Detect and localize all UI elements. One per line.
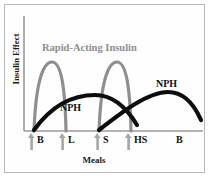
x-tick-label-l: L — [68, 134, 75, 145]
chart-plot-area — [0, 0, 210, 178]
x-tick-label-b2: B — [176, 134, 183, 145]
nph-annotation-left: NPH — [60, 102, 81, 113]
x-tick-label-b1: B — [37, 134, 44, 145]
meal-arrow-hs — [125, 133, 132, 150]
insulin-effect-chart-figure: Insulin Effect Rapid-Acting Insulin NPH … — [0, 0, 210, 178]
nph-curve-2 — [99, 92, 201, 130]
x-tick-label-s: S — [103, 134, 109, 145]
meal-arrow-s — [94, 133, 101, 150]
y-axis-label: Insulin Effect — [11, 24, 21, 94]
rapid-acting-insulin-annotation: Rapid-Acting Insulin — [42, 42, 137, 53]
nph-annotation-right: NPH — [156, 78, 177, 89]
x-axis-label: Meals — [24, 155, 164, 165]
meal-arrow-b1 — [28, 133, 35, 150]
meal-arrow-l — [59, 133, 66, 150]
x-tick-label-hs: HS — [134, 134, 147, 145]
